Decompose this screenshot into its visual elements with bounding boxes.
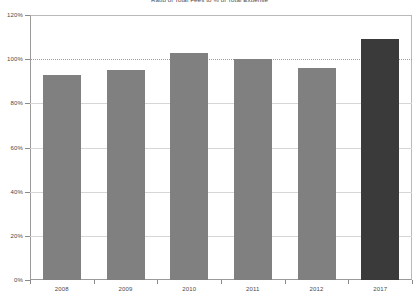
gridline-20	[30, 236, 412, 237]
y-tick-120	[25, 15, 30, 16]
x-tick	[221, 280, 222, 284]
y-tick-100	[25, 59, 30, 60]
x-axis-label-2009: 2009	[94, 286, 158, 293]
x-axis-label-2010: 2010	[157, 286, 221, 293]
x-axis-label-2012: 2012	[285, 286, 349, 293]
y-axis-label: 60%	[0, 145, 23, 151]
bar-2011	[234, 59, 272, 280]
bar-2008	[43, 75, 81, 280]
x-tick	[157, 280, 158, 284]
x-tick	[94, 280, 95, 284]
gridline-80	[30, 103, 412, 104]
bar-chart: Ratio of Total Fees to % of Total Expens…	[0, 0, 419, 298]
x-axis-label-2008: 2008	[30, 286, 94, 293]
x-tick	[348, 280, 349, 284]
gridline-100	[30, 59, 412, 60]
bar-2010	[170, 53, 208, 280]
gridline-40	[30, 192, 412, 193]
bar-2009	[107, 70, 145, 280]
y-tick-20	[25, 236, 30, 237]
y-axis-label: 20%	[0, 233, 23, 239]
y-tick-80	[25, 103, 30, 104]
y-tick-40	[25, 192, 30, 193]
y-axis-label: 40%	[0, 189, 23, 195]
x-tick	[30, 280, 31, 284]
x-tick-end	[412, 280, 413, 284]
y-axis-label: 80%	[0, 100, 23, 106]
x-axis-label-2017: 2017	[348, 286, 412, 293]
gridline-60	[30, 148, 412, 149]
y-axis-label: 120%	[0, 12, 23, 18]
chart-title: Ratio of Total Fees to % of Total Expens…	[0, 0, 419, 2]
y-axis-label: 0%	[0, 277, 23, 283]
bar-2017	[361, 39, 399, 280]
y-tick-60	[25, 148, 30, 149]
bar-2012	[298, 68, 336, 280]
x-axis-label-2011: 2011	[221, 286, 285, 293]
y-axis-label: 100%	[0, 56, 23, 62]
x-tick	[285, 280, 286, 284]
